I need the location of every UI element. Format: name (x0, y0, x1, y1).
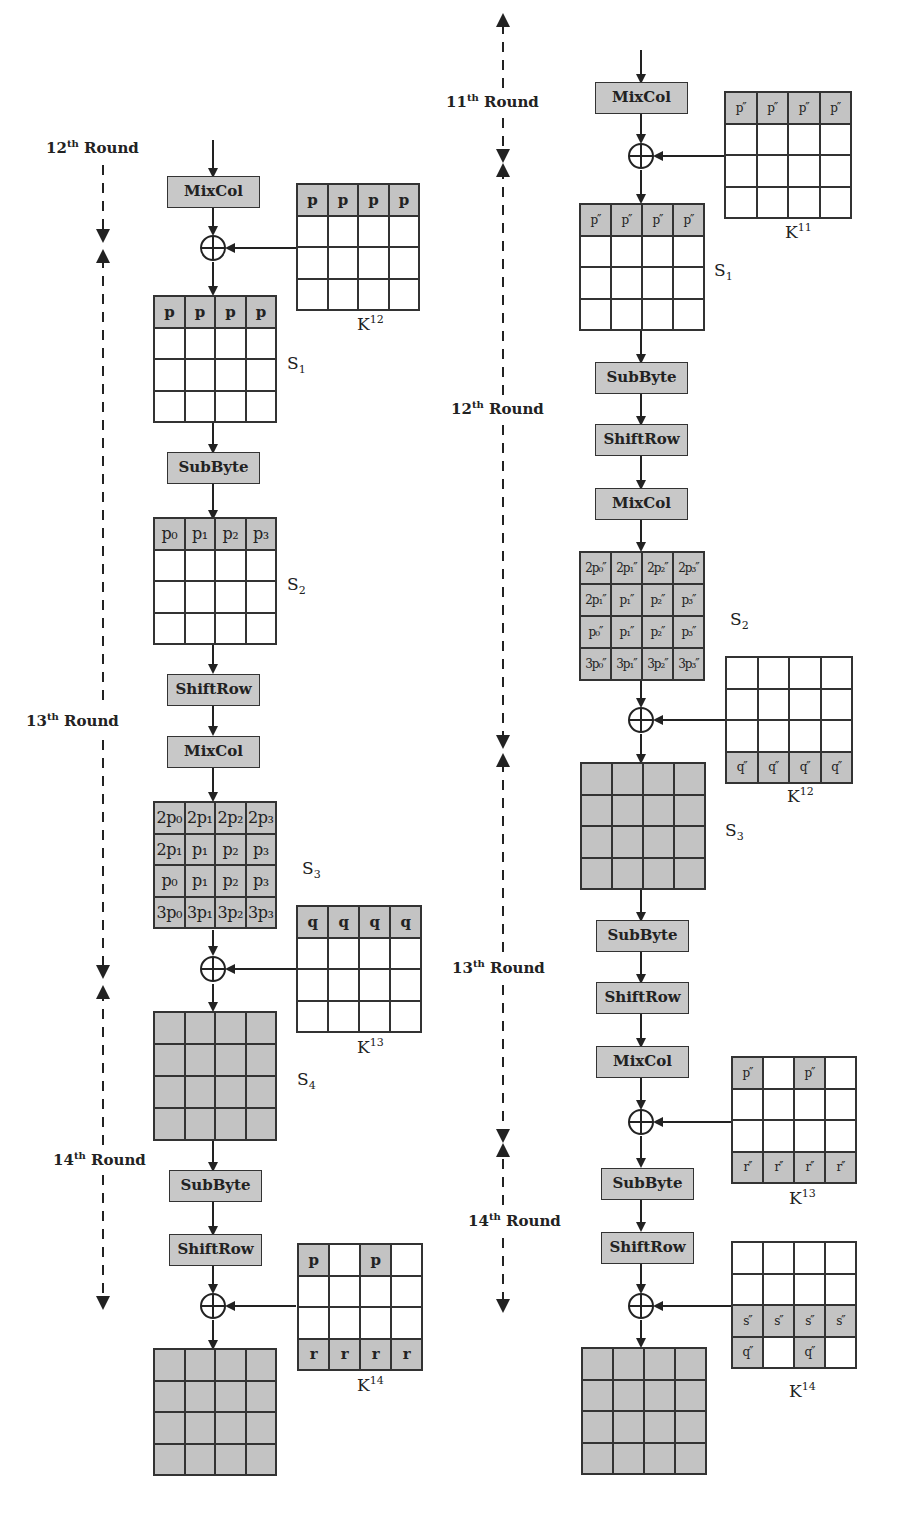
grid-cell: p (298, 1244, 329, 1276)
grid-cell (611, 267, 642, 299)
grid-cell (825, 1337, 856, 1369)
grid-cell: 3p₃ (246, 897, 277, 929)
grid-cell: q′′ (726, 752, 758, 784)
grid-cell (154, 328, 185, 360)
grid-cell (185, 613, 216, 645)
grid-cell: p′′ (673, 204, 704, 236)
grid-cell (580, 267, 611, 299)
grid-cell (215, 1444, 246, 1476)
grid-cell (215, 1012, 246, 1044)
grid-cell (613, 1348, 644, 1380)
grid-cell (185, 328, 216, 360)
grid-cell (581, 763, 612, 795)
state-grid-output (581, 1347, 707, 1475)
grid-cell (215, 1044, 246, 1076)
round-label-13: 13th Round (26, 711, 119, 730)
grid-cell (359, 969, 390, 1001)
grid-cell (391, 1276, 422, 1308)
grid-cell: p (328, 184, 359, 216)
grid-cell (390, 969, 421, 1001)
grid-cell (215, 391, 246, 423)
grid-cell (246, 359, 277, 391)
grid-cell: p (389, 184, 420, 216)
grid-cell (185, 391, 216, 423)
grid-cell: p′′ (732, 1057, 763, 1089)
grid-cell (215, 359, 246, 391)
grid-cell (611, 236, 642, 268)
key-grid-k12: q′′q′′q′′q′′ (725, 656, 853, 784)
grid-cell (821, 720, 853, 752)
grid-cell (582, 1348, 613, 1380)
op-shiftrow: ShiftRow (595, 424, 688, 456)
grid-cell: p (360, 1244, 391, 1276)
grid-cell (154, 391, 185, 423)
grid-cell (154, 613, 185, 645)
grid-cell (215, 1412, 246, 1444)
grid-cell (246, 328, 277, 360)
grid-cell (613, 1443, 644, 1475)
grid-cell (185, 1444, 216, 1476)
grid-cell (825, 1089, 856, 1121)
grid-cell (611, 299, 642, 331)
grid-cell: s′′ (794, 1305, 825, 1337)
grid-cell (246, 1108, 277, 1140)
grid-cell: p′′ (820, 92, 852, 124)
grid-cell (642, 267, 673, 299)
grid-cell: 2p₂′′ (642, 552, 673, 584)
round-label-12: 12th Round (46, 138, 139, 157)
grid-cell (328, 969, 359, 1001)
grid-cell: p (358, 184, 389, 216)
grid-cell: p₀ (154, 518, 185, 550)
grid-cell: p′′ (788, 92, 820, 124)
grid-cell (674, 826, 705, 858)
grid-cell: q (328, 906, 359, 938)
grid-cell (297, 279, 328, 311)
grid-cell (215, 328, 246, 360)
grid-cell (215, 1076, 246, 1108)
grid-cell (154, 1412, 185, 1444)
grid-cell (788, 187, 820, 219)
grid-cell: q′′ (821, 752, 853, 784)
grid-cell (825, 1274, 856, 1306)
grid-cell (246, 1044, 277, 1076)
grid-cell: r′′ (732, 1152, 763, 1184)
grid-cell: p₂′′ (642, 584, 673, 616)
grid-cell (297, 1001, 328, 1033)
grid-cell (185, 1381, 216, 1413)
grid-cell (788, 124, 820, 156)
grid-cell (328, 1001, 359, 1033)
op-subbyte: SubByte (169, 1170, 262, 1202)
grid-cell (154, 581, 185, 613)
grid-cell: p₃ (246, 834, 277, 866)
key-label-k14: K14 (357, 1374, 384, 1395)
grid-cell: p₁ (185, 865, 216, 897)
grid-cell: 2p₃ (246, 802, 277, 834)
op-mixcol: MixCol (595, 82, 688, 114)
grid-cell (215, 1349, 246, 1381)
grid-cell (794, 1242, 825, 1274)
grid-cell (763, 1337, 794, 1369)
grid-cell (642, 236, 673, 268)
grid-cell (215, 581, 246, 613)
grid-cell (612, 858, 643, 890)
grid-cell (825, 1242, 856, 1274)
grid-cell (246, 1349, 277, 1381)
grid-cell (674, 763, 705, 795)
key-grid-k13: qqqq (296, 905, 422, 1033)
grid-cell (215, 550, 246, 582)
grid-cell (820, 155, 852, 187)
grid-cell: p′′ (757, 92, 789, 124)
grid-cell: p₁′′ (611, 584, 642, 616)
grid-cell: s′′ (732, 1305, 763, 1337)
grid-cell: q′′ (758, 752, 790, 784)
state-grid-s1: p′′p′′p′′p′′ (579, 203, 705, 331)
state-grid-s4 (153, 1011, 277, 1141)
grid-cell (763, 1242, 794, 1274)
grid-cell (358, 247, 389, 279)
grid-cell: p₁ (185, 518, 216, 550)
key-label-k14: K14 (789, 1380, 816, 1401)
grid-cell (215, 1381, 246, 1413)
grid-cell: p₃′′ (673, 584, 704, 616)
grid-cell (763, 1089, 794, 1121)
grid-cell (154, 1349, 185, 1381)
